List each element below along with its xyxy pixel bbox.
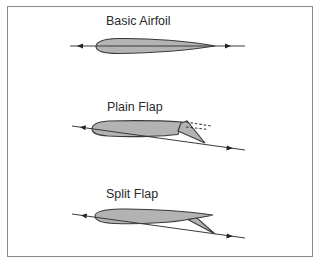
split-right-arrow-icon [226, 233, 233, 238]
panel-basic-airfoil: Basic Airfoil [70, 14, 245, 54]
basic-right-arrow-icon [225, 44, 231, 49]
split-left-arrow-icon [81, 213, 87, 218]
plain-right-arrow-icon [226, 145, 233, 150]
split-flap-label: Split Flap [106, 187, 158, 201]
airfoil-flap-diagram: Basic Airfoil Plain Flap Split Flap [0, 0, 320, 264]
plain-flap-main-body [92, 121, 182, 137]
plain-flap-label: Plain Flap [107, 100, 163, 114]
panel-plain-flap: Plain Flap [72, 100, 245, 150]
panel-split-flap: Split Flap [72, 187, 245, 238]
basic-airfoil-label: Basic Airfoil [106, 14, 171, 28]
basic-left-arrow-icon [77, 44, 83, 49]
